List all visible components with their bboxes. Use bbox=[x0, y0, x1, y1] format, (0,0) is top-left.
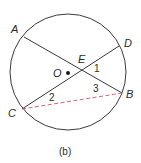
label-b: B bbox=[126, 88, 133, 100]
figure-caption: (b) bbox=[59, 146, 71, 157]
circle-chord-diagram: A D E O B C 1 2 3 (b) bbox=[0, 0, 141, 163]
label-c: C bbox=[8, 107, 16, 119]
label-e: E bbox=[78, 53, 86, 65]
angle-label-3: 3 bbox=[93, 83, 99, 94]
label-a: A bbox=[10, 23, 18, 35]
center-point-o bbox=[66, 71, 70, 75]
chord-ab bbox=[24, 37, 122, 93]
label-d: D bbox=[124, 37, 132, 49]
segment-cb-dashed bbox=[22, 93, 122, 109]
angle-label-1: 1 bbox=[94, 63, 100, 74]
label-o: O bbox=[53, 67, 62, 79]
chord-cd bbox=[22, 46, 119, 109]
angle-label-2: 2 bbox=[49, 92, 55, 103]
